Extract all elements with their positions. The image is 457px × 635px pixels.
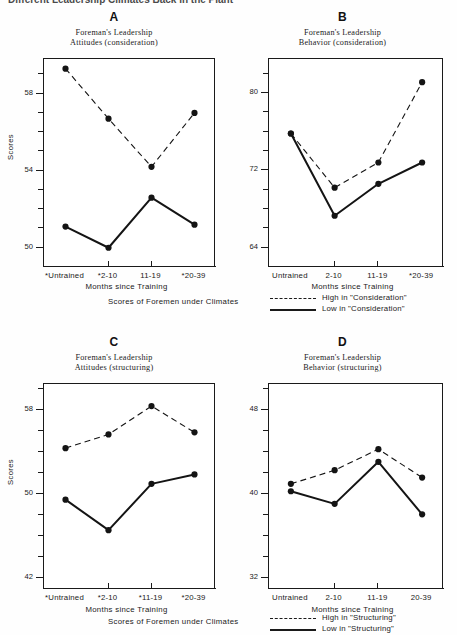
c-series-layer <box>44 384 216 589</box>
panel-a-title: Foreman's Leadership Attitudes (consider… <box>0 28 228 47</box>
panel-a-y-axis-title: Scores <box>6 134 15 160</box>
b-x-axis-line <box>268 266 444 267</box>
a-x-axis-line <box>43 266 216 267</box>
c-y-tick <box>36 577 43 578</box>
a-y-tick-label: 58 <box>3 88 33 97</box>
a-y-tick <box>36 170 43 171</box>
d-data-point <box>332 467 338 473</box>
solid-line-swatch-icon <box>270 309 316 311</box>
a-y-tick <box>38 227 43 228</box>
legend-label-low-structuring: Low in "Structuring" <box>322 624 394 633</box>
a-y-tick <box>36 93 43 94</box>
d-y-tick <box>263 430 268 431</box>
a-data-point <box>105 116 111 122</box>
c-data-point <box>62 497 68 503</box>
c-data-point <box>105 527 111 533</box>
a-x-tick <box>108 261 109 267</box>
a-y-tick-label: 54 <box>3 165 33 174</box>
a-data-point <box>191 222 197 228</box>
legend-label-high-structuring: High in "Structuring" <box>322 613 396 622</box>
c-y-tick <box>38 451 43 452</box>
b-y-tick <box>263 150 268 151</box>
d-y-tick <box>261 577 268 578</box>
panel-d-title-line2: Behavior (structuring) <box>228 363 457 373</box>
d-y-tick-label: 32 <box>228 572 258 581</box>
c-y-tick <box>38 388 43 389</box>
c-y-tick <box>36 409 43 410</box>
a-series-line <box>66 198 195 248</box>
b-y-tick <box>263 131 268 132</box>
a-series-layer <box>44 59 216 267</box>
c-data-point <box>148 481 154 487</box>
b-data-point <box>375 159 381 165</box>
b-data-point <box>375 181 381 187</box>
c-y-tick <box>38 472 43 473</box>
b-series-layer <box>269 59 444 267</box>
solid-line-swatch-icon <box>270 629 316 631</box>
a-x-tick-label: *20-39 <box>154 271 234 280</box>
b-y-tick <box>263 111 268 112</box>
d-data-point <box>288 481 294 487</box>
b-y-tick <box>261 92 268 93</box>
a-data-point <box>105 245 111 251</box>
d-series-line <box>291 462 422 515</box>
b-x-tick <box>377 261 378 267</box>
b-y-tick <box>261 247 268 248</box>
c-x-tick <box>108 583 109 589</box>
d-y-tick <box>261 409 268 410</box>
panel-c-letter: C <box>0 335 228 349</box>
b-x-tick-label: *20-39 <box>381 271 457 280</box>
panel-a-plot-area <box>43 58 215 266</box>
d-y-tick <box>263 556 268 557</box>
c-y-tick <box>38 514 43 515</box>
a-y-tick-label: 50 <box>3 242 33 251</box>
panel-d-title-line1: Foreman's Leadership <box>304 353 381 362</box>
c-data-point <box>191 429 197 435</box>
b-data-point <box>288 130 294 136</box>
d-y-tick-label: 40 <box>228 488 258 497</box>
b-y-tick-label: 64 <box>228 242 258 251</box>
a-data-point <box>62 66 68 72</box>
panel-b-letter: B <box>228 10 457 24</box>
panel-a-x-axis-title: Months since Training <box>30 282 223 291</box>
panel-a-letter: A <box>0 10 228 24</box>
top-caption-text: Different Leadership Climates Back in th… <box>8 0 338 4</box>
d-y-tick <box>263 472 268 473</box>
legend-label-low-consideration: Low in "Consideration" <box>322 304 405 313</box>
b-y-tick <box>263 189 268 190</box>
b-data-point <box>419 79 425 85</box>
panel-d-letter: D <box>228 335 457 349</box>
d-data-point <box>332 501 338 507</box>
d-series-line <box>291 449 422 484</box>
panel-c-title-line1: Foreman's Leadership <box>75 353 152 362</box>
panel-b-x-axis-title: Months since Training <box>253 282 452 291</box>
top-caption-fragment: Different Leadership Climates Back in th… <box>8 0 338 9</box>
d-y-tick <box>263 451 268 452</box>
panel-b-title-line2: Behavior (consideration) <box>228 38 457 48</box>
d-data-point <box>288 488 294 494</box>
d-y-tick-label: 48 <box>228 404 258 413</box>
climates-note-consideration: Scores of Foremen under Climates <box>108 297 239 306</box>
panel-c-plot-area <box>43 383 215 588</box>
a-y-tick <box>38 73 43 74</box>
dashed-line-swatch-icon <box>270 618 316 619</box>
a-y-tick <box>38 131 43 132</box>
a-data-point <box>62 223 68 229</box>
c-y-tick-label: 42 <box>3 572 33 581</box>
panel-d: D Foreman's Leadership Behavior (structu… <box>228 335 457 620</box>
c-data-point <box>148 403 154 409</box>
d-x-tick <box>334 583 335 589</box>
b-y-tick-label: 72 <box>228 164 258 173</box>
a-data-point <box>148 195 154 201</box>
b-data-point <box>419 159 425 165</box>
a-y-tick <box>38 189 43 190</box>
panel-b: B Foreman's Leadership Behavior (conside… <box>228 10 457 295</box>
b-data-point <box>332 213 338 219</box>
legend-label-high-consideration: High in "Consideration" <box>322 293 407 302</box>
panel-a: A Foreman's Leadership Attitudes (consid… <box>0 10 228 295</box>
climates-note-structuring: Scores of Foremen under Climates <box>108 617 239 626</box>
d-x-axis-line <box>268 588 444 589</box>
panel-c-title-line2: Attitudes (structuring) <box>0 363 228 373</box>
panel-b-title-line1: Foreman's Leadership <box>304 28 381 37</box>
b-x-tick <box>334 261 335 267</box>
